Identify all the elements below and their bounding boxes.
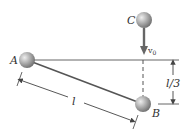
velocity-label: v0 (147, 46, 157, 56)
ball-b (135, 96, 151, 112)
dimension-l-tick-b (133, 115, 138, 129)
dimension-l3-label: l/3 (166, 77, 180, 90)
velocity-arrow-head (140, 46, 148, 55)
label-c: C (127, 14, 136, 27)
dumbbell-impact-diagram: l/3 l v0 A B C (0, 0, 188, 138)
label-a: A (9, 54, 18, 67)
ball-a (19, 52, 35, 68)
label-b: B (151, 107, 160, 120)
dimension-l-label: l (72, 95, 76, 108)
dimension-l-arrow-right (84, 103, 133, 121)
dimension-l-tick-a (17, 72, 22, 86)
ball-c (136, 12, 152, 28)
rod-ab (27, 60, 143, 104)
dimension-l-arrow-left (20, 80, 68, 97)
